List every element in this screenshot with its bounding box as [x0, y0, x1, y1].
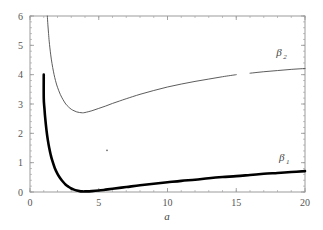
- y-tick-label: 2: [18, 128, 23, 139]
- y-tick-label: 0: [18, 187, 23, 198]
- y-tick-label: 1: [18, 157, 23, 168]
- series-label-sub-beta_1: 1: [286, 158, 290, 166]
- plot-canvas: 05101520 0123456 a β1β2: [0, 0, 323, 230]
- x-axis-title: a: [164, 210, 170, 222]
- x-tick-label: 10: [163, 197, 173, 208]
- x-tick-label: 5: [96, 197, 101, 208]
- y-tick-label: 3: [18, 99, 23, 110]
- stray-dot: [106, 149, 108, 151]
- chart-figure: 05101520 0123456 a β1β2: [0, 0, 323, 230]
- y-tick-label: 5: [18, 40, 23, 51]
- series-label-beta_2: β: [275, 46, 282, 58]
- annotation-group: [106, 149, 108, 151]
- x-tick-label: 0: [28, 197, 33, 208]
- y-tick-label: 4: [18, 69, 23, 80]
- x-tick-label: 15: [231, 197, 241, 208]
- series-label-beta_1: β: [278, 151, 285, 163]
- y-tick-label: 6: [18, 11, 23, 22]
- series-label-sub-beta_2: 2: [283, 53, 287, 61]
- x-tick-label: 20: [300, 197, 310, 208]
